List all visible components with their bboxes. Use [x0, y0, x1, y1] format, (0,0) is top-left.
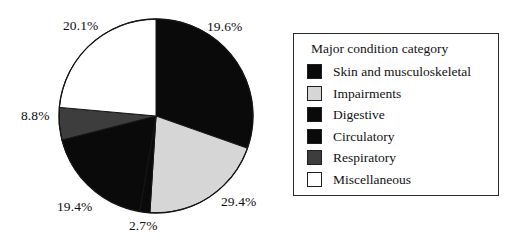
- legend-label-circulatory: Circulatory: [333, 129, 394, 144]
- pie-value-label-skin-and-musculoskeletal: 19.6%: [207, 20, 242, 34]
- legend-item-miscellaneous[interactable]: Miscellaneous: [307, 169, 497, 191]
- legend-label-digestive: Digestive: [333, 107, 385, 122]
- legend-item-skin-and-musculoskeletal[interactable]: Skin and musculoskeletal: [307, 61, 497, 83]
- pie-chart-figure: 19.6% 29.4% 2.7% 19.4% 8.8% 20.1% Major …: [0, 0, 507, 242]
- pie-chart-panel: 19.6% 29.4% 2.7% 19.4% 8.8% 20.1%: [0, 0, 290, 242]
- legend-swatch-icon-respiratory: [307, 150, 322, 165]
- legend-swatch-icon-impairments: [307, 86, 322, 101]
- legend-item-respiratory[interactable]: Respiratory: [307, 147, 497, 169]
- pie-slices: [59, 19, 253, 213]
- pie-value-label-miscellaneous: 20.1%: [63, 19, 98, 33]
- legend-swatch-icon-circulatory: [307, 129, 322, 144]
- legend-swatch-icon-skin-and-musculoskeletal: [307, 64, 322, 79]
- pie-slice-miscellaneous: [59, 19, 156, 116]
- pie-value-label-circulatory: 19.4%: [57, 200, 92, 214]
- pie-value-label-impairments: 29.4%: [221, 195, 256, 209]
- legend-swatch-icon-digestive: [307, 107, 322, 122]
- legend-items: Skin and musculoskeletal Impairments Dig…: [307, 61, 497, 190]
- legend-label-respiratory: Respiratory: [333, 150, 396, 165]
- legend-title: Major condition category: [311, 41, 448, 57]
- legend-label-impairments: Impairments: [333, 86, 401, 101]
- legend-swatch-icon-miscellaneous: [307, 172, 322, 187]
- legend-label-miscellaneous: Miscellaneous: [333, 172, 411, 187]
- pie-value-label-digestive: 2.7%: [129, 219, 158, 233]
- legend-label-skin-and-musculoskeletal: Skin and musculoskeletal: [333, 64, 471, 79]
- legend-item-circulatory[interactable]: Circulatory: [307, 126, 497, 148]
- legend-item-digestive[interactable]: Digestive: [307, 104, 497, 126]
- pie-value-label-respiratory: 8.8%: [21, 109, 50, 123]
- legend: Major condition category Skin and muscul…: [293, 33, 499, 196]
- legend-item-impairments[interactable]: Impairments: [307, 83, 497, 105]
